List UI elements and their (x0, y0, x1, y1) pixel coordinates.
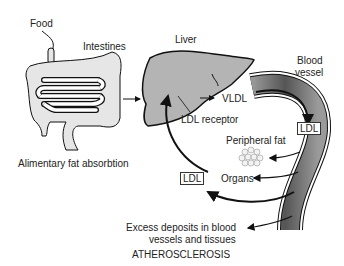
peripheral-fat-label: Peripheral fat (226, 135, 285, 146)
excess-label-2: vessels and tissues (149, 234, 236, 245)
blood-vessel-label-2: vessel (295, 67, 323, 78)
food-tube-icon (42, 31, 54, 64)
excess-label-1: Excess deposits in blood (126, 222, 236, 233)
ldl-receptor-label: LDL receptor (181, 114, 238, 125)
intestines-label: Intestines (83, 41, 126, 52)
ldl-return-box: LDL (180, 172, 204, 185)
blood-vessel-label-1: Blood (297, 55, 323, 66)
liver-label: Liver (175, 34, 197, 45)
ldl-vessel-box: LDL (297, 122, 321, 135)
food-label: Food (30, 18, 53, 29)
vldl-label: VLDL (222, 93, 247, 104)
organs-label: Organs (221, 173, 254, 184)
fat-cells-icon (239, 147, 263, 166)
alimentary-label: Alimentary fat absorbtion (18, 158, 129, 169)
atherosclerosis-label: ATHEROSCLEROSIS (132, 249, 230, 260)
to-fat-arrow (270, 152, 300, 158)
intestines-icon (26, 52, 121, 150)
